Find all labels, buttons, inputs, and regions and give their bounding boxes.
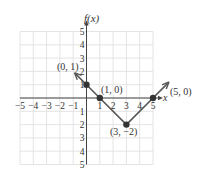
svg-text:−1: −1 [68,101,78,111]
svg-text:1: 1 [97,101,102,111]
svg-text:1: 1 [80,107,85,117]
y-axis-label: f(x) [84,12,100,25]
svg-text:5: 5 [80,27,85,37]
point-label-5-0: (5, 0) [170,86,192,98]
svg-text:−3: −3 [42,101,52,111]
svg-text:−5: −5 [15,101,25,111]
svg-text:3: 3 [80,133,85,143]
svg-text:4: 4 [80,147,85,157]
svg-text:4: 4 [80,40,85,50]
point-label-1-0: (1, 0) [101,84,123,96]
function-graph: −5−4−3−2−1123455432112345 f(x) x (0, 1) … [0,0,206,178]
svg-text:2: 2 [80,120,85,130]
svg-text:5: 5 [80,160,85,170]
svg-text:−4: −4 [28,101,38,111]
point-label-3-neg2: (3, −2) [110,126,137,138]
svg-text:−2: −2 [55,101,65,111]
svg-text:5: 5 [151,101,156,111]
svg-text:3: 3 [124,101,129,111]
point-label-0-1: (0, 1) [57,61,79,73]
x-axis-label: x [162,92,168,103]
svg-text:3: 3 [80,54,85,64]
axes [20,21,163,165]
